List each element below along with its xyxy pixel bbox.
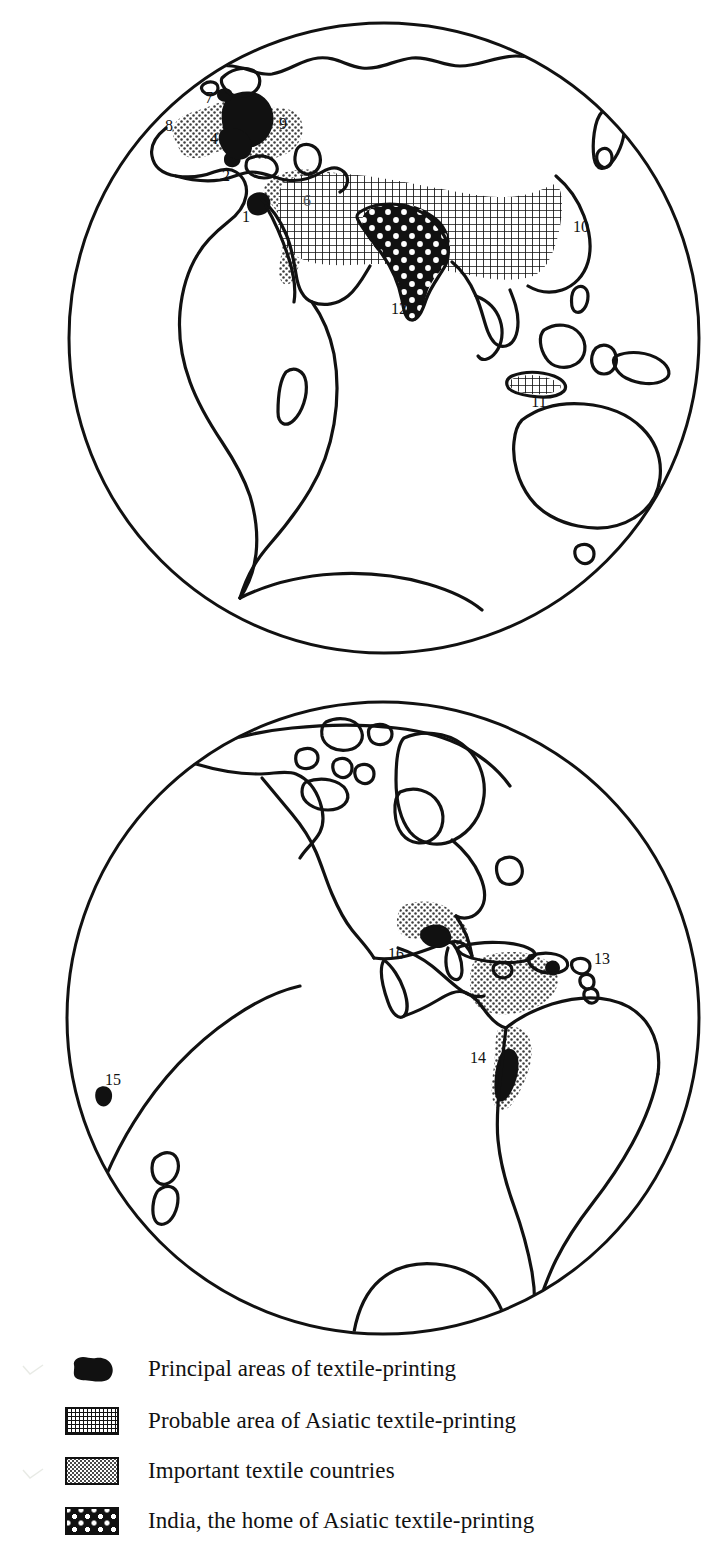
map-label-14: 14 <box>470 1049 486 1066</box>
map-label-1: 1 <box>242 208 250 225</box>
map-label-4: 4 <box>210 130 218 147</box>
map-label-10: 10 <box>573 218 589 235</box>
legend-swatch-important-countries <box>65 1457 119 1485</box>
globe-western-hemisphere: 13 14 15 16 <box>0 660 728 1350</box>
map-label-6: 6 <box>303 192 311 209</box>
legend-label-india: India, the home of Asiatic textile-print… <box>148 1508 534 1534</box>
map-label-13: 13 <box>594 950 610 967</box>
legend-row-india: India, the home of Asiatic textile-print… <box>0 1496 728 1546</box>
legend-row-important-countries: Important textile countries <box>0 1446 728 1496</box>
map-label-15: 15 <box>105 1071 121 1088</box>
legend-label-probable-area: Probable area of Asiatic textile-printin… <box>148 1408 516 1434</box>
legend-swatch-india <box>65 1507 119 1535</box>
globe-outline <box>67 702 699 1334</box>
pencil-tick-mark-2 <box>22 1468 44 1480</box>
map-label-5: 5 <box>250 98 258 115</box>
map-label-3: 3 <box>227 130 235 147</box>
legend-label-principal-areas: Principal areas of textile-printing <box>148 1356 456 1382</box>
legend: Principal areas of textile-printing Prob… <box>0 1338 728 1546</box>
map-label-8: 8 <box>165 117 173 134</box>
map-label-2: 2 <box>222 167 230 184</box>
map-label-7: 7 <box>205 89 213 106</box>
coast-kamchatka <box>614 83 634 120</box>
globe-eastern-hemisphere: 1 2 3 4 5 6 7 8 9 10 11 12 <box>0 0 728 690</box>
legend-row-probable-area: Probable area of Asiatic textile-printin… <box>0 1396 728 1446</box>
legend-swatch-probable-area <box>65 1407 119 1435</box>
globe-outline <box>69 23 699 653</box>
legend-label-important-countries: Important textile countries <box>148 1458 395 1484</box>
pencil-tick-mark-1 <box>22 1364 44 1376</box>
coast-south-america-south <box>514 1316 534 1327</box>
map-label-12: 12 <box>391 300 407 317</box>
map-label-9: 9 <box>279 115 287 132</box>
map-label-11: 11 <box>531 393 546 410</box>
map-label-16: 16 <box>388 945 404 962</box>
legend-row-principal: Principal areas of textile-printing <box>0 1344 728 1394</box>
legend-swatch-principal-areas <box>65 1355 119 1383</box>
